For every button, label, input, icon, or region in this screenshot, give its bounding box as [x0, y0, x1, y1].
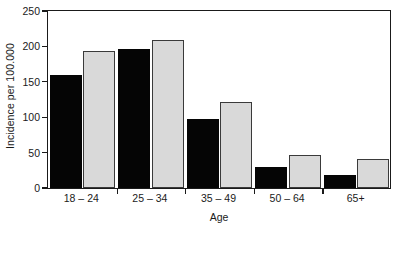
y-tick	[42, 46, 48, 47]
x-axis-label: 25 – 34	[132, 193, 167, 204]
bar-series-1-1	[50, 75, 82, 188]
y-tick-label: 50	[28, 147, 40, 158]
bar-series-1-4	[255, 167, 287, 188]
x-axis-label: 35 – 49	[201, 193, 236, 204]
x-tick	[254, 188, 255, 194]
x-tick	[185, 188, 186, 194]
y-tick	[42, 10, 48, 11]
bar-group	[118, 11, 184, 188]
bar-chart: Incidence per 100.000 050100150200250 18…	[0, 0, 403, 256]
y-tick	[42, 187, 48, 188]
y-tick-label: 100	[22, 112, 40, 123]
bar-series-2-2	[152, 40, 184, 188]
y-tick	[42, 152, 48, 153]
bar-group	[187, 11, 253, 188]
bar-group	[50, 11, 116, 188]
x-tick	[117, 188, 118, 194]
y-axis-title: Incidence per 100.000	[2, 0, 18, 196]
bar-group	[255, 11, 321, 188]
y-tick-label: 150	[22, 77, 40, 88]
x-axis-title: Age	[47, 212, 391, 223]
y-tick-label: 250	[22, 6, 40, 17]
y-tick-label: 0	[34, 183, 40, 194]
bar-series-2-3	[220, 102, 252, 188]
bar-series-2-5	[357, 159, 389, 188]
x-tick	[322, 188, 323, 194]
y-tick	[42, 117, 48, 118]
plot-area: 050100150200250	[47, 11, 391, 189]
bar-series-1-5	[324, 175, 356, 188]
bar-series-2-4	[289, 155, 321, 188]
bar-group	[324, 11, 390, 188]
bar-series-2-1	[83, 51, 115, 188]
bar-series-1-3	[187, 119, 219, 188]
bar-series-1-2	[118, 49, 150, 188]
x-axis-label: 65+	[347, 193, 365, 204]
x-axis-label: 18 – 24	[64, 193, 99, 204]
y-tick-label: 200	[22, 41, 40, 52]
y-tick	[42, 81, 48, 82]
x-axis-label: 50 – 64	[270, 193, 305, 204]
